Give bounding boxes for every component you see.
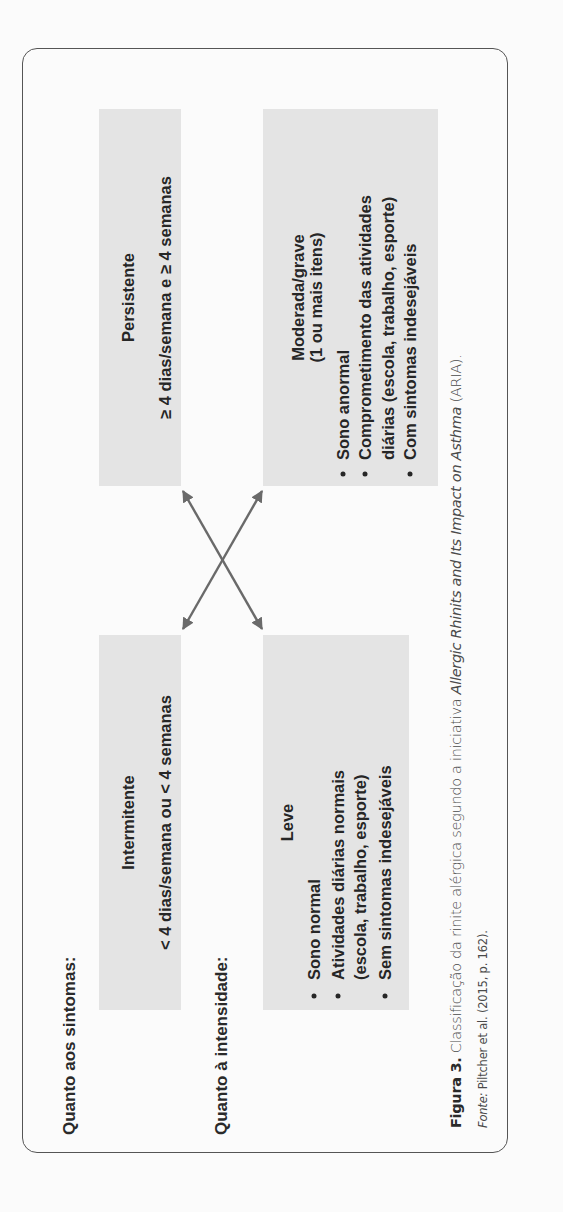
source-label: Fonte: — [476, 1093, 490, 1128]
figure-source: Fonte: Piltcher et al. (2015, p. 162). — [475, 930, 491, 1128]
source-text: Piltcher et al. (2015, p. 162). — [476, 930, 490, 1092]
rotated-page: Quanto aos sintomas: Quanto à intensidad… — [0, 0, 563, 1212]
caption-text: Classificação da rinite alérgica segundo… — [448, 694, 464, 1057]
caption-label: Figura 3. — [448, 1058, 464, 1128]
figure-caption: Figura 3. Classificação da rinite alérgi… — [446, 355, 466, 1128]
caption-text-end: (ARIA). — [448, 355, 464, 407]
caption-italic: Allergic Rhinits and Its Impact on Asthm… — [448, 407, 464, 695]
